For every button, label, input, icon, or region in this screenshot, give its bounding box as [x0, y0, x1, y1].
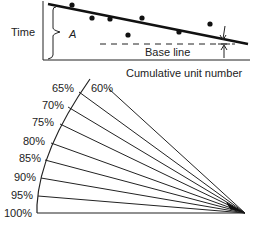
- fan-label-100: 100%: [4, 207, 32, 219]
- data-point: [107, 16, 112, 21]
- data-point: [125, 32, 130, 37]
- fan-line-65: [79, 92, 245, 213]
- data-point: [89, 15, 94, 20]
- baseline-label: Base line: [145, 46, 190, 58]
- brace-label: A: [68, 28, 76, 40]
- percent-fan: 60% 65% 70% 75% 80% 85% 90% 95% 100%: [4, 79, 245, 219]
- fan-line-80: [51, 143, 245, 213]
- data-point: [176, 29, 181, 34]
- x-axis-label: Cumulative unit number: [126, 67, 243, 79]
- data-point: [139, 15, 144, 20]
- trend-line: [48, 4, 248, 44]
- learning-curve-diagram: Time A Base line Cumulative unit number …: [0, 0, 261, 230]
- learning-curve-chart: Time A Base line Cumulative unit number: [11, 1, 250, 79]
- fan-line-70: [68, 107, 245, 213]
- y-axis-label: Time: [11, 26, 35, 38]
- fan-label-70: 70%: [42, 99, 64, 111]
- fan-label-65: 65%: [52, 82, 74, 94]
- fan-line-90: [41, 178, 245, 213]
- data-point: [207, 21, 212, 26]
- data-point: [69, 2, 74, 7]
- fan-label-90: 90%: [14, 171, 36, 183]
- fan-label-95: 95%: [11, 189, 33, 201]
- fan-label-85: 85%: [19, 152, 41, 164]
- fan-label-60: 60%: [91, 82, 113, 94]
- fan-label-80: 80%: [23, 135, 45, 147]
- fan-label-75: 75%: [32, 116, 54, 128]
- brace-a: [48, 7, 60, 59]
- fan-line-60: [109, 89, 245, 213]
